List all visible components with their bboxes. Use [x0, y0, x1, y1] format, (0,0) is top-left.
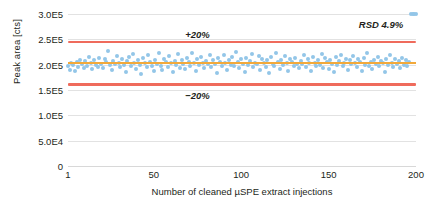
data-point	[272, 64, 276, 68]
data-point	[258, 68, 262, 72]
data-point	[225, 68, 229, 72]
data-point	[351, 54, 355, 58]
data-point	[150, 64, 154, 68]
data-point	[346, 68, 350, 72]
data-point	[171, 70, 175, 74]
data-point	[131, 52, 135, 56]
plot-area: 3.0E52.5E52.0E51.5E51.0E55.0E40150100150…	[68, 14, 416, 166]
data-point	[360, 69, 364, 73]
data-point	[68, 68, 72, 72]
data-point	[260, 57, 264, 61]
data-point	[90, 67, 94, 71]
data-point	[183, 67, 187, 71]
data-point	[211, 58, 215, 62]
data-point	[293, 56, 297, 60]
data-point	[153, 58, 157, 62]
data-point	[194, 69, 198, 73]
data-point	[73, 69, 77, 73]
y-tick-label: 5.0E4	[38, 135, 63, 146]
data-point	[120, 57, 124, 61]
data-point	[239, 57, 243, 61]
x-tick-label: 200	[408, 169, 424, 180]
data-point	[87, 55, 91, 59]
data-point	[278, 67, 282, 71]
data-point	[304, 65, 308, 69]
data-point	[167, 54, 171, 58]
data-point	[97, 56, 101, 60]
x-tick-label: 1	[65, 169, 70, 180]
data-point	[274, 51, 278, 55]
data-point	[309, 69, 313, 73]
x-axis-baseline	[68, 166, 416, 167]
data-point	[328, 58, 332, 62]
data-point	[101, 66, 105, 70]
data-point	[264, 65, 268, 69]
x-tick-label: 150	[321, 169, 337, 180]
data-point	[180, 58, 184, 62]
data-point	[286, 69, 290, 73]
data-point	[339, 53, 343, 57]
data-point	[388, 53, 392, 57]
data-point	[376, 55, 380, 59]
y-tick-label: 2.5E5	[38, 34, 63, 45]
data-point	[269, 55, 273, 59]
data-point	[332, 70, 336, 74]
data-point	[190, 51, 194, 55]
y-tick-label: 0	[58, 161, 63, 172]
rsd-label: RSD 4.9%	[359, 19, 403, 30]
data-point	[365, 51, 369, 55]
data-point	[124, 70, 128, 74]
x-tick-label: 50	[148, 169, 159, 180]
data-point	[311, 55, 315, 59]
data-point	[78, 58, 82, 62]
data-point	[141, 56, 145, 60]
data-point	[110, 68, 114, 72]
lower-limit-line	[68, 83, 416, 86]
data-point	[237, 66, 241, 70]
data-point	[321, 66, 325, 70]
data-point	[327, 67, 331, 71]
data-point	[230, 55, 234, 59]
data-point	[176, 52, 180, 56]
data-point	[398, 66, 402, 70]
data-point	[178, 66, 182, 70]
data-point	[166, 65, 170, 69]
data-point	[267, 71, 271, 75]
y-tick-label: 3.0E5	[38, 9, 63, 20]
data-point	[208, 53, 212, 57]
data-point	[250, 52, 254, 56]
data-point	[405, 64, 409, 68]
data-point	[139, 72, 143, 76]
upper-limit-line	[68, 41, 416, 44]
data-point	[362, 56, 366, 60]
lower-limit-label: −20%	[185, 90, 210, 101]
scatter-chart-figure: Peak area [cts] 3.0E52.5E52.0E51.5E51.0E…	[0, 0, 426, 208]
x-axis-title: Number of cleaned µSPE extract injection…	[68, 186, 416, 197]
y-tick-label: 1.0E5	[38, 110, 63, 121]
data-point	[234, 50, 238, 54]
data-point	[202, 66, 206, 70]
x-tick-label: 100	[233, 169, 249, 180]
upper-limit-label: +20%	[185, 29, 210, 40]
y-tick-label: 2.0E5	[38, 59, 63, 70]
data-point	[145, 65, 149, 69]
data-point	[146, 53, 150, 57]
data-point	[185, 56, 189, 60]
data-point	[232, 64, 236, 68]
data-point	[76, 65, 80, 69]
data-point	[157, 51, 161, 55]
gridline	[68, 141, 416, 142]
data-point	[370, 67, 374, 71]
data-point	[215, 71, 219, 75]
gridline	[68, 14, 416, 15]
data-point	[251, 65, 255, 69]
data-point	[115, 54, 119, 58]
data-point	[377, 64, 381, 68]
data-point	[341, 64, 345, 68]
data-point	[127, 55, 131, 59]
data-point	[160, 68, 164, 72]
gridline	[68, 90, 416, 91]
data-point	[279, 58, 283, 62]
gridline	[68, 115, 416, 116]
data-point	[414, 12, 418, 16]
